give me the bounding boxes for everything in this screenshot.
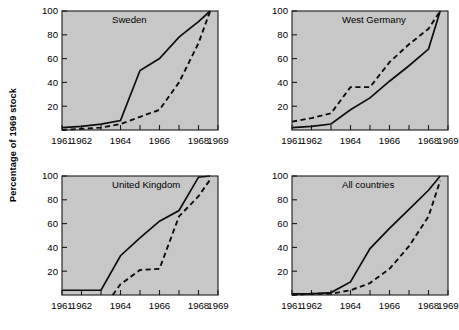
y-tick-label: 60 [277, 218, 288, 229]
y-tick-label: 20 [277, 101, 288, 112]
y-tick-label: 20 [47, 266, 58, 277]
x-tick-label: 1961 [281, 300, 302, 311]
y-tick-label: 80 [47, 194, 58, 205]
panel-plot: 20406080100196119621964196619681969All c… [250, 165, 459, 330]
y-axis-label-container: Percentage of 1969 stock [0, 0, 20, 330]
y-tick-label: 40 [47, 77, 58, 88]
panel-plot: 20406080100196119621964196619681969West … [250, 0, 459, 165]
x-tick-label: 1968 [188, 135, 209, 146]
x-tick-label: 1966 [149, 300, 170, 311]
chart-figure: Percentage of 1969 stock 204060801001961… [0, 0, 459, 330]
panel-west-germany: 20406080100196119621964196619681969West … [250, 0, 459, 165]
x-tick-label: 1969 [437, 300, 458, 311]
x-tick-label: 1966 [149, 135, 170, 146]
y-tick-label: 40 [47, 242, 58, 253]
panel-title: West Germany [342, 14, 406, 25]
panel-all-countries: 20406080100196119621964196619681969All c… [250, 165, 459, 330]
x-tick-label: 1968 [418, 300, 439, 311]
x-tick-label: 1962 [301, 135, 322, 146]
plot-background [292, 11, 448, 130]
y-tick-label: 40 [277, 77, 288, 88]
y-tick-label: 100 [272, 170, 288, 181]
y-tick-label: 60 [47, 218, 58, 229]
y-tick-label: 40 [277, 242, 288, 253]
y-tick-label: 80 [47, 29, 58, 40]
y-tick-label: 100 [272, 5, 288, 16]
x-tick-label: 1961 [281, 135, 302, 146]
y-tick-label: 100 [42, 170, 58, 181]
panel-title: United Kingdom [112, 179, 180, 190]
panel-title: All countries [342, 179, 394, 190]
panel-plot: 20406080100196119621964196619681969Unite… [20, 165, 229, 330]
panel-sweden: 20406080100196119621964196619681969Swede… [20, 0, 229, 165]
x-tick-label: 1962 [71, 135, 92, 146]
x-tick-label: 1964 [340, 300, 362, 311]
y-tick-label: 20 [277, 266, 288, 277]
plot-background [62, 176, 218, 295]
y-tick-label: 100 [42, 5, 58, 16]
panel-title: Sweden [112, 14, 147, 25]
x-tick-label: 1964 [110, 300, 132, 311]
x-tick-label: 1969 [437, 135, 458, 146]
y-tick-label: 80 [277, 194, 288, 205]
x-tick-label: 1969 [207, 135, 228, 146]
x-tick-label: 1961 [51, 135, 72, 146]
x-tick-label: 1964 [340, 135, 362, 146]
panel-united-kingdom: 20406080100196119621964196619681969Unite… [20, 165, 229, 330]
y-tick-label: 60 [277, 53, 288, 64]
x-tick-label: 1966 [379, 135, 400, 146]
y-tick-label: 80 [277, 29, 288, 40]
x-tick-label: 1964 [110, 135, 132, 146]
panel-plot: 20406080100196119621964196619681969Swede… [20, 0, 229, 165]
x-tick-label: 1966 [379, 300, 400, 311]
x-tick-label: 1969 [207, 300, 228, 311]
x-tick-label: 1962 [301, 300, 322, 311]
y-tick-label: 20 [47, 101, 58, 112]
y-tick-label: 60 [47, 53, 58, 64]
x-tick-label: 1962 [71, 300, 92, 311]
x-tick-label: 1968 [188, 300, 209, 311]
x-tick-label: 1968 [418, 135, 439, 146]
x-tick-label: 1961 [51, 300, 72, 311]
y-axis-label: Percentage of 1969 stock [8, 70, 18, 220]
